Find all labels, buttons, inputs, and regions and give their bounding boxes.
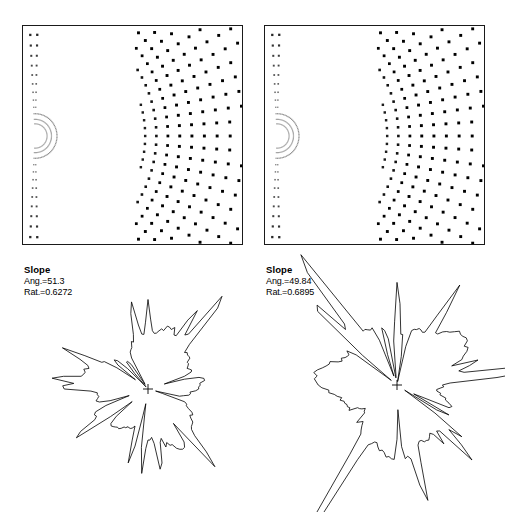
lattice-dot bbox=[135, 222, 138, 225]
lattice-dot bbox=[448, 40, 451, 43]
lattice-dot bbox=[224, 47, 227, 50]
lattice-dot bbox=[56, 134, 57, 135]
lattice-dot bbox=[383, 215, 386, 218]
dot-pattern-panel-right bbox=[264, 25, 485, 245]
lattice-dot bbox=[430, 205, 433, 208]
lattice-dot bbox=[201, 110, 204, 113]
lattice-dot bbox=[377, 47, 380, 50]
lattice-dot bbox=[161, 65, 164, 68]
lattice-dot bbox=[32, 187, 34, 189]
lattice-dot bbox=[217, 203, 220, 206]
lattice-dot bbox=[224, 176, 227, 179]
lattice-dot bbox=[293, 133, 294, 134]
lattice-dot bbox=[35, 91, 37, 93]
lattice-dot bbox=[278, 119, 279, 120]
lattice-dot bbox=[277, 99, 278, 100]
lattice-dot bbox=[417, 104, 420, 107]
lattice-dot bbox=[142, 111, 144, 113]
lattice-dot bbox=[184, 179, 187, 182]
lattice-dot bbox=[296, 146, 297, 147]
lattice-dot bbox=[188, 234, 191, 237]
lattice-dot bbox=[454, 96, 457, 99]
lattice-dot bbox=[148, 92, 151, 95]
lattice-dot bbox=[35, 152, 36, 153]
lattice-dot bbox=[289, 154, 290, 155]
lattice-dot bbox=[402, 40, 405, 43]
lattice-dot bbox=[152, 161, 155, 164]
lattice-dot bbox=[199, 241, 202, 244]
lattice-dot bbox=[456, 108, 459, 111]
lattice-dot bbox=[40, 157, 41, 158]
lattice-dot bbox=[41, 151, 42, 152]
lattice-dot bbox=[48, 127, 49, 128]
lattice-dot bbox=[397, 135, 400, 138]
lattice-dot bbox=[143, 119, 145, 121]
lattice-dot bbox=[294, 122, 295, 123]
lattice-dot bbox=[378, 69, 381, 72]
lattice-dot bbox=[403, 97, 406, 100]
lattice-dot bbox=[382, 104, 384, 106]
lattice-dot bbox=[298, 137, 299, 138]
lattice-dot bbox=[183, 216, 186, 219]
lattice-dot bbox=[32, 179, 34, 181]
lattice-dot bbox=[277, 152, 278, 153]
lattice-dot bbox=[432, 135, 435, 138]
lattice-dot bbox=[278, 55, 280, 57]
lattice-dot bbox=[51, 137, 52, 138]
lattice-dot bbox=[177, 42, 180, 45]
lattice-dot bbox=[419, 227, 422, 230]
lattice-dot bbox=[34, 119, 35, 120]
lattice-dot bbox=[234, 194, 237, 197]
lattice-dot bbox=[283, 151, 284, 152]
lattice-dot bbox=[150, 47, 153, 50]
lattice-dot bbox=[386, 39, 389, 42]
lattice-dot bbox=[272, 44, 274, 46]
lattice-dot bbox=[290, 153, 291, 154]
lattice-dot bbox=[408, 49, 411, 52]
lattice-dot bbox=[172, 59, 175, 62]
lattice-dot bbox=[292, 120, 293, 121]
lattice-dot bbox=[206, 40, 209, 43]
lattice-dot bbox=[150, 169, 153, 172]
lattice-dot bbox=[409, 135, 412, 138]
lattice-dot bbox=[280, 119, 281, 120]
lattice-dot bbox=[36, 205, 38, 207]
lattice-dot bbox=[275, 113, 276, 114]
lattice-dot bbox=[37, 152, 38, 153]
lattice-dot bbox=[438, 183, 441, 186]
lattice-dot bbox=[443, 159, 446, 162]
lattice-dot bbox=[155, 143, 158, 146]
lattice-dot bbox=[160, 40, 163, 43]
lattice-dot bbox=[296, 126, 297, 127]
lattice-dot bbox=[170, 237, 173, 240]
lattice-dot bbox=[146, 207, 149, 210]
lattice-dot bbox=[278, 74, 280, 76]
lattice-dot bbox=[217, 34, 220, 37]
lattice-dot bbox=[34, 152, 35, 153]
lattice-dot bbox=[273, 74, 275, 76]
lattice-dot bbox=[43, 115, 44, 116]
lattice-dot bbox=[414, 59, 417, 62]
lattice-dot bbox=[285, 115, 286, 116]
lattice-dot bbox=[469, 162, 472, 165]
lattice-dot bbox=[36, 44, 38, 46]
lattice-dot bbox=[136, 69, 139, 72]
lattice-dot bbox=[177, 155, 180, 158]
lattice-dot bbox=[466, 93, 469, 96]
lattice-dot bbox=[40, 114, 41, 115]
lattice-dot bbox=[31, 205, 33, 207]
lattice-dot bbox=[52, 122, 53, 123]
lattice-dot bbox=[154, 117, 157, 120]
lattice-dot bbox=[430, 64, 433, 67]
lattice-dot bbox=[141, 215, 144, 218]
lattice-dot bbox=[430, 35, 433, 38]
lattice-dot bbox=[155, 79, 158, 82]
lattice-dot bbox=[154, 152, 157, 155]
lattice-dot bbox=[277, 164, 278, 165]
lattice-dot bbox=[470, 121, 473, 124]
lattice-dot bbox=[30, 44, 32, 46]
lattice-dot bbox=[47, 117, 48, 118]
lattice-dot bbox=[295, 147, 296, 148]
lattice-dot bbox=[196, 183, 199, 186]
lattice-dot bbox=[278, 44, 280, 46]
